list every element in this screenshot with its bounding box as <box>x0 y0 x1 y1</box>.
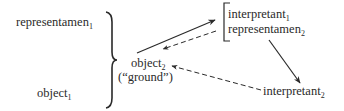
node-object1: object1 <box>37 86 72 100</box>
node-object2-text: object <box>131 56 162 70</box>
arrow-object2-to-interpretant1 <box>137 20 215 53</box>
node-object1-sub: 1 <box>68 93 72 102</box>
node-interpretant1: interpretant1 <box>228 7 290 21</box>
node-representamen1: representamen1 <box>16 15 93 29</box>
node-ground: (“ground”) <box>118 70 173 84</box>
node-representamen2: representamen2 <box>228 22 305 36</box>
node-representamen1-sub: 1 <box>89 22 93 31</box>
arrow-representamen2-to-interpretant2 <box>269 40 300 83</box>
curly-brace <box>106 12 117 108</box>
node-representamen2-text: representamen <box>228 22 301 36</box>
node-representamen1-text: representamen <box>16 15 89 29</box>
node-object1-text: object <box>37 86 68 100</box>
node-interpretant2-text: interpretant <box>263 84 321 98</box>
arrow-interpretant2-to-object2 <box>172 66 261 90</box>
node-object2: object2 <box>131 56 166 70</box>
node-interpretant2: interpretant2 <box>263 84 325 98</box>
node-ground-text: (“ground”) <box>118 70 173 84</box>
arrow-interpretant1-to-object2 <box>163 31 216 49</box>
node-interpretant1-text: interpretant <box>228 7 286 21</box>
node-interpretant2-sub: 2 <box>321 91 325 100</box>
node-representamen2-sub: 2 <box>301 29 305 38</box>
